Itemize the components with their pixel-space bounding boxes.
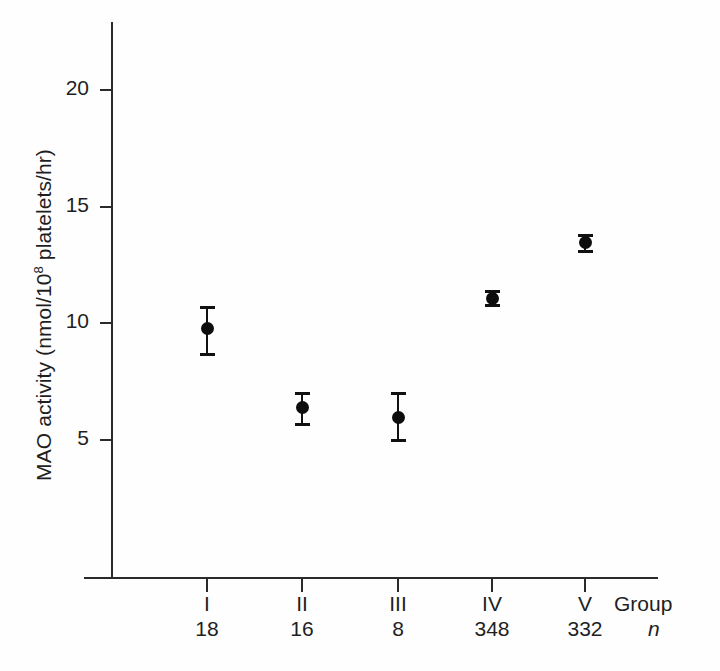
group-axis-caption: Group [614, 592, 672, 616]
y-tick-label: 15 [43, 193, 89, 217]
y-tick-label: 20 [43, 76, 89, 100]
y-tick-label: 10 [43, 309, 89, 333]
x-n-value-iii: 8 [353, 617, 443, 641]
x-n-value-iv: 348 [447, 617, 537, 641]
x-n-value-ii: 16 [257, 617, 347, 641]
y-axis-title-exponent: 8 [31, 266, 46, 273]
x-n-value-i: 18 [162, 617, 252, 641]
marker-dot [486, 292, 499, 305]
x-tick-iii [397, 579, 399, 592]
y-tick-mark [100, 89, 111, 91]
x-group-label-ii: II [257, 592, 347, 616]
error-bar-cap-lower [200, 353, 215, 356]
error-bar-cap-upper [295, 392, 310, 395]
error-bar-cap-upper [200, 306, 215, 309]
x-tick-iv [491, 579, 493, 592]
x-tick-v [584, 579, 586, 592]
y-tick-mark [100, 206, 111, 208]
x-group-label-i: I [162, 592, 252, 616]
y-tick-mark [100, 439, 111, 441]
marker-dot [201, 322, 214, 335]
x-tick-ii [301, 579, 303, 592]
error-bar-cap-lower [578, 250, 593, 253]
marker-dot [392, 411, 405, 424]
x-n-value-v: 332 [540, 617, 630, 641]
error-bar-cap-lower [295, 423, 310, 426]
n-axis-caption: n [648, 617, 660, 641]
chart-figure: MAO activity (nmol/108 platelets/hr) 510… [0, 0, 720, 671]
marker-dot [579, 236, 592, 249]
y-axis-line [111, 22, 113, 579]
marker-dot [296, 401, 309, 414]
y-tick-mark [100, 322, 111, 324]
x-axis-line [84, 577, 658, 579]
x-group-label-iv: IV [447, 592, 537, 616]
x-group-label-iii: III [353, 592, 443, 616]
x-tick-i [206, 579, 208, 592]
error-bar-cap-upper [391, 392, 406, 395]
error-bar-cap-lower [391, 439, 406, 442]
y-tick-label: 5 [43, 426, 89, 450]
